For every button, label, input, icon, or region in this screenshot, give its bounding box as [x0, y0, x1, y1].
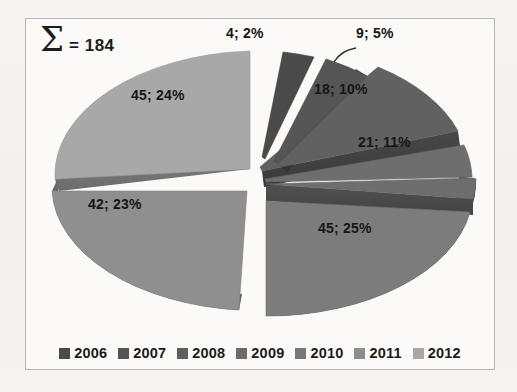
legend-item-2007[interactable]: 2007: [118, 345, 166, 361]
leader-line-2007: [334, 48, 356, 62]
data-label-2010: 45; 25%: [318, 220, 372, 236]
pie-slice-2010[interactable]: [266, 201, 470, 316]
legend-item-2011[interactable]: 2011: [354, 345, 401, 361]
pie-chart-graphic[interactable]: [26, 19, 496, 325]
chart-legend: 2006 2007 2008 2009 2010 2011 2012: [26, 345, 494, 361]
data-label-2007: 9; 5%: [356, 25, 394, 41]
sum-value: = 184: [69, 36, 115, 56]
legend-label-2007: 2007: [133, 345, 166, 361]
data-label-2011: 42; 23%: [88, 196, 142, 212]
legend-item-2009[interactable]: 2009: [236, 345, 284, 361]
data-label-2008: 18; 10%: [314, 81, 368, 97]
legend-swatch-icon-2007: [118, 348, 129, 359]
legend-label-2006: 2006: [74, 345, 107, 361]
legend-label-2012: 2012: [428, 345, 461, 361]
legend-swatch-icon-2009: [236, 348, 247, 359]
legend-item-2010[interactable]: 2010: [295, 345, 343, 361]
legend-label-2010: 2010: [310, 345, 343, 361]
legend-swatch-icon-2011: [354, 348, 365, 359]
legend-swatch-icon-2010: [295, 348, 306, 359]
pie-slice-2012[interactable]: [55, 51, 250, 179]
pie-chart-plot-area[interactable]: Σ = 184 4; 2% 9; 5% 18; 10% 21; 11% 45; …: [26, 19, 494, 323]
legend-item-2012[interactable]: 2012: [413, 345, 461, 361]
legend-swatch-icon-2008: [177, 348, 188, 359]
sum-badge: Σ = 184: [40, 25, 115, 56]
legend-item-2006[interactable]: 2006: [59, 345, 107, 361]
chart-frame: Σ = 184 4; 2% 9; 5% 18; 10% 21; 11% 45; …: [25, 18, 495, 370]
data-label-2009: 21; 11%: [358, 134, 411, 150]
pie-slice-2011[interactable]: [52, 191, 247, 310]
legend-swatch-icon-2006: [59, 348, 70, 359]
legend-label-2008: 2008: [192, 345, 225, 361]
legend-label-2009: 2009: [251, 345, 284, 361]
data-label-2006: 4; 2%: [226, 25, 264, 41]
data-label-2012: 45; 24%: [131, 87, 185, 103]
sigma-icon: Σ: [40, 25, 64, 54]
legend-item-2008[interactable]: 2008: [177, 345, 225, 361]
legend-swatch-icon-2012: [413, 348, 424, 359]
legend-label-2011: 2011: [369, 345, 401, 361]
